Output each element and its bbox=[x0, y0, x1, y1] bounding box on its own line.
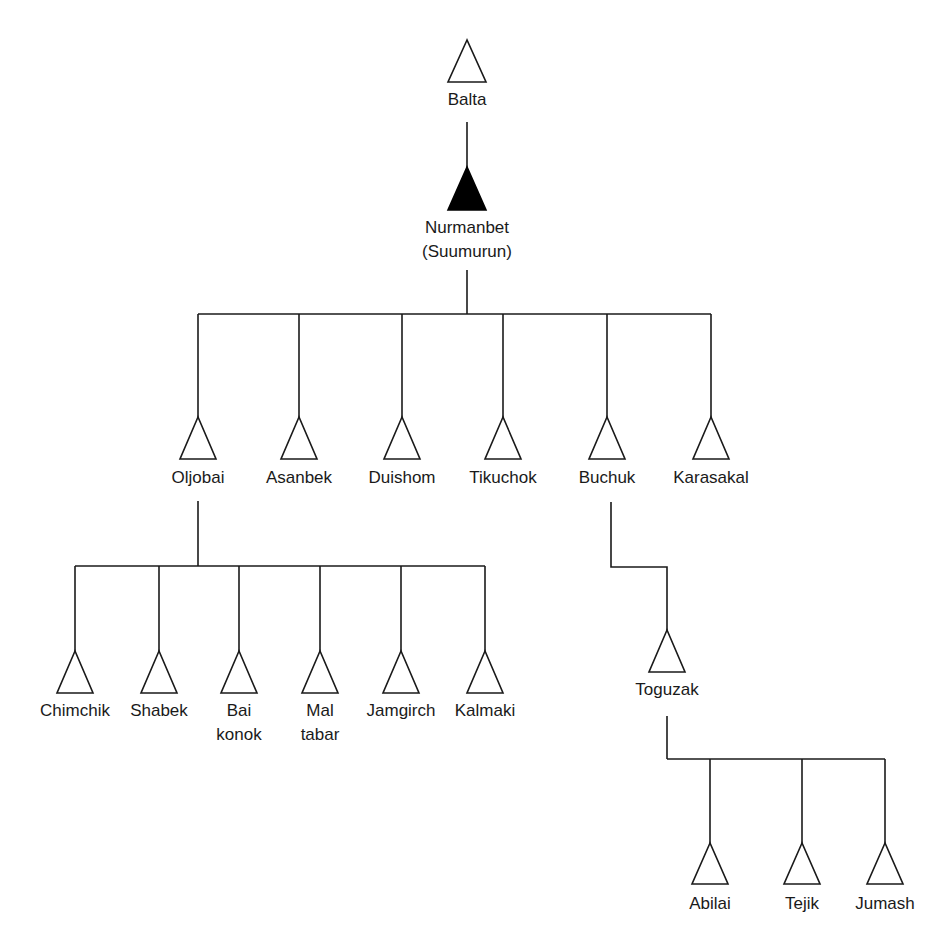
male-triangle-icon-shabek bbox=[141, 651, 177, 693]
male-triangle-icon-duishom bbox=[384, 417, 420, 459]
node-label-shabek: Shabek bbox=[130, 699, 188, 723]
male-triangle-icon-abilai bbox=[692, 843, 728, 884]
node-label-mal-tabar: Mal tabar bbox=[301, 699, 340, 747]
male-triangle-icon-mal-tabar bbox=[302, 651, 338, 693]
male-triangle-icon-toguzak bbox=[649, 630, 685, 672]
node-label-tikuchok: Tikuchok bbox=[469, 466, 536, 490]
male-triangle-icon-karasakal bbox=[693, 417, 729, 459]
node-label-toguzak: Toguzak bbox=[635, 678, 698, 702]
ego-filled-triangle-icon-nurmanbet bbox=[448, 167, 486, 210]
male-triangle-icon-balta bbox=[448, 40, 486, 82]
male-triangle-icon-chimchik bbox=[57, 651, 93, 693]
node-label-jumash: Jumash bbox=[855, 892, 915, 916]
node-label-tejik: Tejik bbox=[785, 892, 819, 916]
male-triangle-icon-oljobai bbox=[180, 417, 216, 459]
node-label-oljobai: Oljobai bbox=[172, 466, 225, 490]
male-triangle-icon-buchuk bbox=[589, 417, 625, 459]
node-label-balta: Balta bbox=[448, 88, 487, 112]
male-triangle-icon-jamgirch bbox=[383, 651, 419, 693]
node-label-kalmaki: Kalmaki bbox=[455, 699, 515, 723]
male-triangle-icon-tejik bbox=[784, 843, 820, 884]
node-label-abilai: Abilai bbox=[689, 892, 731, 916]
node-label-duishom: Duishom bbox=[368, 466, 435, 490]
connector-buchuk-toguzak bbox=[611, 502, 667, 630]
node-label-nurmanbet: Nurmanbet (Suumurun) bbox=[422, 216, 512, 264]
male-triangle-icon-tikuchok bbox=[485, 417, 521, 459]
node-label-jamgirch: Jamgirch bbox=[367, 699, 436, 723]
male-triangle-icon-bai-konok bbox=[221, 651, 257, 693]
male-triangle-icon-jumash bbox=[867, 843, 903, 884]
male-triangle-icon-asanbek bbox=[281, 417, 317, 459]
node-label-buchuk: Buchuk bbox=[579, 466, 636, 490]
node-label-chimchik: Chimchik bbox=[40, 699, 110, 723]
node-label-bai-konok: Bai konok bbox=[216, 699, 261, 747]
male-triangle-icon-kalmaki bbox=[467, 651, 503, 693]
node-label-asanbek: Asanbek bbox=[266, 466, 332, 490]
node-label-karasakal: Karasakal bbox=[673, 466, 749, 490]
